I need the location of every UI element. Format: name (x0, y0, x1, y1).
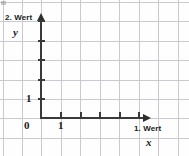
corner-artifact (1, 1, 6, 5)
coordinate-system-figure: 2. Wert y 1. Wert x 0 1 1 (0, 0, 189, 156)
y-axis-name-label: 2. Wert (5, 13, 32, 22)
x-axis-tick (80, 112, 82, 119)
x-axis-tick (99, 112, 101, 119)
gridline-horizontal (0, 60, 189, 61)
x-axis-name-label: 1. Wert (134, 124, 161, 133)
gridline-vertical (178, 0, 179, 156)
x-axis-variable-label: x (146, 136, 152, 148)
x-axis-tick (138, 112, 140, 119)
y-axis-unit-label: 1 (26, 92, 32, 104)
x-axis-arrowhead-icon (143, 114, 151, 122)
origin-label: 0 (24, 119, 30, 131)
gridline-horizontal (0, 2, 189, 3)
x-axis-tick (60, 112, 62, 119)
gridline-vertical (80, 0, 81, 156)
y-axis-line (40, 20, 42, 119)
gridline-vertical (22, 0, 23, 156)
gridline-horizontal (0, 138, 189, 139)
y-axis-tick (38, 59, 45, 61)
gridline-vertical (100, 0, 101, 156)
y-axis-tick (38, 98, 45, 100)
y-axis-tick (38, 40, 45, 42)
y-axis-tick (38, 79, 45, 81)
x-axis-unit-label: 1 (58, 119, 64, 131)
gridline-horizontal (0, 80, 189, 81)
y-axis-variable-label: y (13, 26, 18, 38)
x-axis-tick (119, 112, 121, 119)
gridline-horizontal (0, 41, 189, 42)
gridline-vertical (61, 0, 62, 156)
gridline-vertical (119, 0, 120, 156)
gridline-vertical (3, 0, 4, 156)
y-axis-tick (38, 20, 45, 22)
x-axis-line (40, 117, 144, 119)
